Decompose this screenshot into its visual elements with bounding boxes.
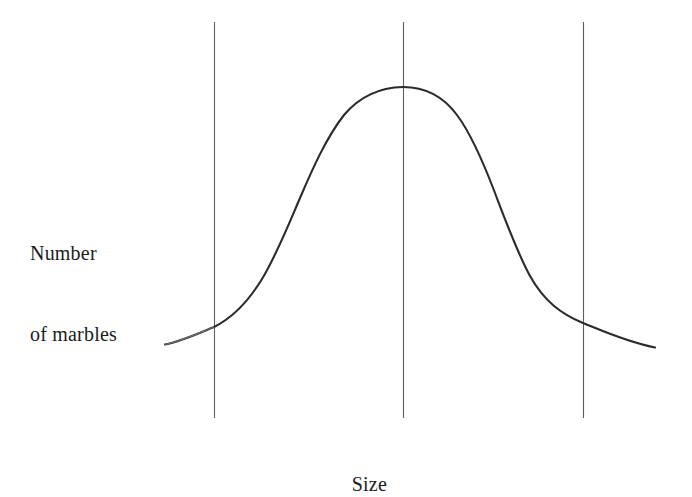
y-axis-label-line-2: of marbles <box>30 321 117 348</box>
x-axis-label-text: Size <box>352 471 387 497</box>
y-axis-label-line-1: Number <box>30 240 117 267</box>
y-axis-label: Number of marbles <box>30 186 117 402</box>
bell-curve-figure: Number of marbles Size <box>0 0 692 497</box>
x-axis-label: Size <box>0 444 692 497</box>
